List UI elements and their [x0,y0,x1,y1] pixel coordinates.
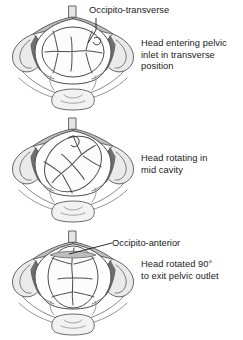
callout-occipito-transverse: Occipito-transverse [89,5,169,16]
caption-mid-cavity: Head rotating in mid cavity [141,153,241,176]
panel-pelvic-outlet-anterior: Occipito-anterior Head rotated 90° to ex… [0,225,243,338]
sacrum-coccyx [52,314,95,335]
fetal-skull-transverse [42,27,104,77]
caption-outlet-anterior: Head rotated 90° to exit pelvic outlet [141,259,241,282]
pelvis-drawing-transverse [6,0,140,113]
sacral-promontory [69,6,76,18]
caption-inlet-transverse: Head entering pelvic inlet in transverse… [141,38,241,73]
sacral-promontory [69,231,76,243]
sacrum-coccyx [52,201,95,222]
pelvis-drawing-rotating [6,112,140,225]
panel-mid-cavity-rotating: Head rotating in mid cavity [0,112,243,225]
obstetric-pelvis-figure: Occipito-transverse Head entering pelvic… [0,0,243,340]
callout-occipito-anterior: Occipito-anterior [112,238,180,249]
sacrum-coccyx [52,89,95,110]
panel-pelvic-inlet-transverse: Occipito-transverse Head entering pelvic… [0,0,243,113]
sacral-promontory [69,118,76,130]
